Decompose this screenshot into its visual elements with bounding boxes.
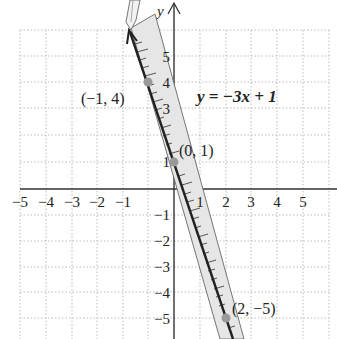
svg-text:5: 5: [299, 194, 307, 210]
svg-text:−3: −3: [64, 194, 80, 210]
svg-text:2: 2: [222, 194, 230, 210]
equation-label: y = −3x + 1: [195, 87, 277, 106]
y-axis-label: y: [155, 3, 164, 19]
svg-text:−5: −5: [12, 194, 28, 210]
line-y-eq-neg3x-plus-1: [130, 32, 233, 339]
point-2-neg5: [222, 314, 231, 323]
svg-text:3: 3: [247, 194, 255, 210]
svg-text:−5: −5: [154, 311, 170, 327]
svg-text:−1: −1: [115, 194, 131, 210]
svg-text:3: 3: [163, 101, 171, 117]
point-label-neg1-4: (−1, 4): [81, 90, 125, 108]
point-0-1: [170, 158, 179, 167]
svg-text:−2: −2: [89, 194, 105, 210]
svg-text:1: 1: [163, 154, 171, 170]
svg-text:−3: −3: [154, 259, 170, 275]
coordinate-plane: y: [0, 0, 337, 339]
svg-text:1: 1: [196, 194, 204, 210]
svg-text:4: 4: [273, 194, 281, 210]
point-neg1-4: [144, 78, 153, 87]
svg-text:−1: −1: [154, 207, 170, 223]
point-label-2-neg5: (2, −5): [232, 300, 276, 318]
point-label-0-1: (0, 1): [179, 142, 214, 160]
svg-text:5: 5: [163, 49, 171, 65]
svg-text:−4: −4: [154, 285, 170, 301]
svg-text:4: 4: [163, 75, 171, 91]
svg-text:−2: −2: [154, 233, 170, 249]
svg-text:−4: −4: [38, 194, 54, 210]
